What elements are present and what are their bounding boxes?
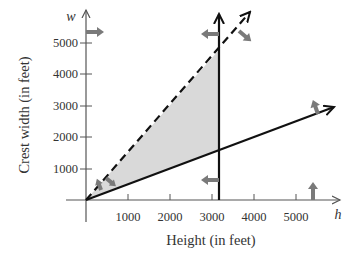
y-axis-variable: w — [66, 9, 76, 24]
y-axis-title: Crest width (in feet) — [16, 56, 33, 173]
x-axis-title: Height (in feet) — [166, 232, 256, 249]
arrow-left-icon — [201, 175, 219, 185]
arrow-right-icon — [86, 27, 104, 37]
x-tick-label: 4000 — [242, 210, 267, 224]
x-tick-label: 2000 — [158, 210, 183, 224]
dashed-boundary-line — [86, 12, 250, 200]
y-tick-label: 1000 — [53, 162, 78, 176]
y-tick-label: 3000 — [53, 99, 78, 113]
inequality-graph: 1000 2000 3000 4000 5000 1000 2000 3000 … — [0, 0, 352, 258]
x-tick-label: 1000 — [116, 210, 141, 224]
arrow-down-right-icon — [236, 27, 255, 45]
arrow-left-icon — [201, 29, 219, 39]
arrow-up-icon — [308, 182, 318, 200]
x-tick-label: 3000 — [200, 210, 225, 224]
x-ticks — [128, 194, 296, 200]
y-tick-label: 5000 — [53, 36, 78, 50]
y-tick-label: 4000 — [53, 67, 78, 81]
y-tick-label: 2000 — [53, 130, 78, 144]
x-tick-label: 5000 — [284, 210, 309, 224]
x-axis-variable: h — [335, 207, 342, 222]
